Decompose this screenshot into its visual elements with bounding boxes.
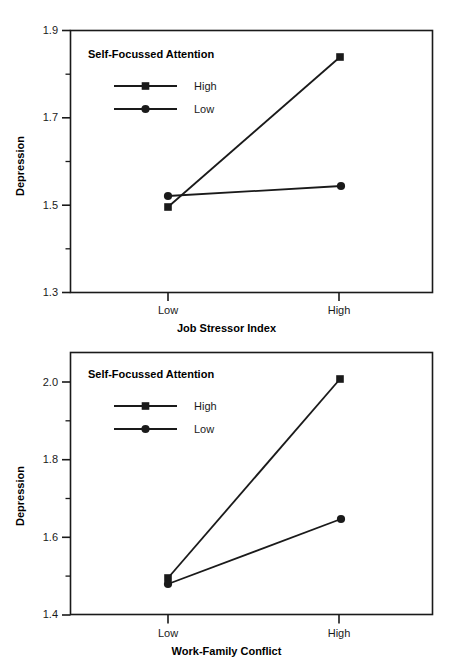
top-legend-label-low: Low xyxy=(194,103,214,115)
bottom-legend-label-low: Low xyxy=(194,423,214,435)
bottom-legend-sample-high xyxy=(114,402,177,410)
bottom-ytick-label-1.6: 1.6 xyxy=(22,532,58,543)
bottom-chart-plot xyxy=(0,336,453,672)
top-series-low-point-high xyxy=(337,182,345,190)
top-series-low-point-low xyxy=(164,192,172,200)
legend-square-marker-icon xyxy=(142,82,150,90)
top-xtick-label-low: Low xyxy=(138,305,198,316)
bottom-series-high-point-high xyxy=(336,375,344,383)
top-legend-sample-low xyxy=(114,105,177,113)
chart-panel-top: 1.9 1.7 1.5 1.3 Depression Low High Job … xyxy=(0,0,453,336)
bottom-plot-frame xyxy=(71,353,433,615)
bottom-x-ticks xyxy=(168,615,339,624)
top-ytick-label-1.3: 1.3 xyxy=(22,287,58,298)
bottom-series-low-point-low xyxy=(164,580,172,588)
top-x-axis-title: Job Stressor Index xyxy=(0,322,453,334)
top-xtick-label-high: High xyxy=(309,305,369,316)
top-ytick-label-1.5: 1.5 xyxy=(22,200,58,211)
top-legend-sample-high xyxy=(114,82,177,90)
legend-circle-marker-icon xyxy=(141,105,149,113)
top-chart-plot xyxy=(0,0,453,336)
bottom-x-axis-title: Work-Family Conflict xyxy=(0,645,453,657)
top-y-axis-title: Depression xyxy=(14,136,26,196)
top-ytick-label-1.7: 1.7 xyxy=(22,112,58,123)
bottom-legend-title: Self-Focussed Attention xyxy=(88,368,214,380)
bottom-legend-sample-low xyxy=(114,425,177,433)
bottom-xtick-label-high: High xyxy=(309,628,369,639)
chart-panel-bottom: 2.0 1.8 1.6 1.4 Depression Low High Work… xyxy=(0,336,453,672)
top-legend-label-high: High xyxy=(194,80,217,92)
figure-page: 1.9 1.7 1.5 1.3 Depression Low High Job … xyxy=(0,0,453,672)
top-series-high-point-low xyxy=(164,203,172,211)
top-series-high-point-high xyxy=(336,53,344,61)
bottom-series-low-point-high xyxy=(337,515,345,523)
bottom-xtick-label-low: Low xyxy=(138,628,198,639)
top-x-ticks xyxy=(168,293,339,302)
top-legend-title: Self-Focussed Attention xyxy=(88,48,214,60)
top-plot-frame xyxy=(71,31,433,293)
bottom-legend-label-high: High xyxy=(194,400,217,412)
legend-circle-marker-icon xyxy=(141,425,149,433)
top-series-low xyxy=(164,182,345,200)
top-ytick-label-1.9: 1.9 xyxy=(22,25,58,36)
bottom-ytick-label-1.8: 1.8 xyxy=(22,454,58,465)
bottom-y-axis-title: Depression xyxy=(14,466,26,526)
bottom-ytick-label-2.0: 2.0 xyxy=(22,377,58,388)
legend-square-marker-icon xyxy=(142,402,150,410)
bottom-ytick-label-1.4: 1.4 xyxy=(22,609,58,620)
